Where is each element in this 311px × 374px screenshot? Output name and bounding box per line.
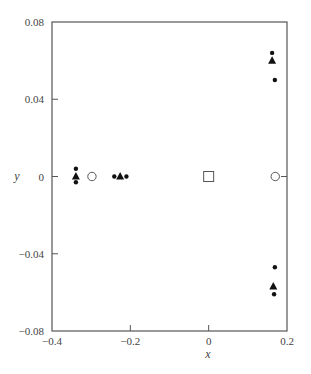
y-tick-label: 0 (39, 171, 45, 183)
filled-circle-marker (273, 265, 277, 269)
open-square-marker (204, 172, 214, 182)
y-tick-label: 0.08 (25, 16, 45, 28)
scatter-chart: −0.4−0.200.20.080.040−0.04−0.08 x y (0, 0, 311, 374)
x-tick-label: −0.4 (42, 335, 62, 347)
x-tick-label: 0 (206, 335, 212, 347)
x-tick-label: −0.2 (120, 335, 140, 347)
filled-triangle-marker (269, 282, 277, 290)
x-axis-label: x (204, 347, 211, 361)
y-tick-label: −0.08 (19, 325, 45, 337)
filled-circle-marker (112, 174, 116, 178)
filled-triangle-marker (72, 172, 80, 180)
y-tick-label: 0.04 (25, 93, 45, 105)
filled-circle-marker (273, 78, 277, 82)
filled-circle-marker (270, 51, 274, 55)
x-tick-label: 0.2 (280, 335, 294, 347)
y-axis-label: y (13, 169, 20, 183)
filled-circle-marker (74, 180, 78, 184)
y-tick-label: −0.04 (19, 248, 45, 260)
filled-circle-marker (74, 167, 78, 171)
open-circle-marker (271, 172, 279, 180)
filled-triangle-marker (268, 56, 276, 64)
data-markers (72, 51, 280, 297)
open-circle-marker (88, 172, 96, 180)
axis-ticks: −0.4−0.200.20.080.040−0.04−0.08 (19, 16, 294, 347)
filled-circle-marker (124, 174, 128, 178)
filled-triangle-marker (116, 172, 124, 180)
filled-circle-marker (272, 292, 276, 296)
